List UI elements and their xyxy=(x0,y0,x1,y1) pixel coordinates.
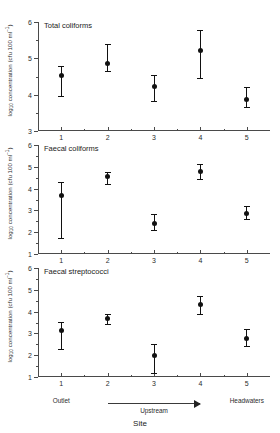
y-tick xyxy=(34,145,38,146)
y-tick-label: 6 xyxy=(28,142,32,149)
errorbar-cap-lower xyxy=(197,314,203,315)
errorbar-cap-upper xyxy=(197,30,203,31)
errorbar-cap-lower xyxy=(151,373,157,374)
y-axis-line xyxy=(38,22,39,131)
errorbar-cap-upper xyxy=(151,75,157,76)
errorbar-cap-lower xyxy=(244,219,250,220)
x-tick-label: 1 xyxy=(59,380,63,387)
errorbar-line xyxy=(200,30,201,78)
data-marker xyxy=(59,193,64,198)
y-tick xyxy=(34,131,38,132)
y-axis-title: log10 concentration (cfu 100 ml−1) xyxy=(6,16,14,125)
data-marker xyxy=(105,174,110,179)
y-tick xyxy=(34,355,38,356)
errorbar-cap-lower xyxy=(244,346,250,347)
y-tick-minor xyxy=(36,221,38,222)
y-tick-minor xyxy=(36,323,38,324)
errorbar-cap-lower xyxy=(58,96,64,97)
data-marker xyxy=(105,316,110,321)
y-tick-label: 1 xyxy=(28,251,32,258)
errorbar-cap-upper xyxy=(58,322,64,323)
x-axis-annotations: Outlet Headwaters Upstream Site xyxy=(0,389,280,433)
plot-area: 12345612345 xyxy=(38,145,270,254)
errorbar-cap-lower xyxy=(197,179,203,180)
x-tick-label: 2 xyxy=(106,380,110,387)
x-tick-minor xyxy=(177,375,178,377)
x-tick-minor xyxy=(131,252,132,254)
x-tick-minor xyxy=(224,252,225,254)
panel-faecal-streptococci: log10 concentration (cfu 100 ml−1) Faeca… xyxy=(0,262,280,389)
y-axis-title: log10 concentration (cfu 100 ml−1) xyxy=(6,262,14,371)
x-tick xyxy=(108,127,109,131)
data-marker xyxy=(105,61,110,66)
x-tick xyxy=(61,127,62,131)
errorbar-cap-upper xyxy=(105,314,111,315)
errorbar-cap-upper xyxy=(58,182,64,183)
y-tick xyxy=(34,95,38,96)
x-tick-label: 5 xyxy=(245,380,249,387)
x-tick xyxy=(108,250,109,254)
errorbar-cap-upper xyxy=(244,329,250,330)
data-marker xyxy=(152,84,157,89)
y-tick xyxy=(34,232,38,233)
errorbar-cap-lower xyxy=(105,184,111,185)
x-tick xyxy=(154,250,155,254)
x-tick-minor xyxy=(224,375,225,377)
data-marker xyxy=(59,328,64,333)
annotation-headwaters: Headwaters xyxy=(230,397,264,404)
errorbar-cap-upper xyxy=(105,44,111,45)
x-tick-minor xyxy=(131,129,132,131)
panel-faecal-coliforms: log10 concentration (cfu 100 ml−1) Faeca… xyxy=(0,139,280,266)
data-marker xyxy=(198,302,203,307)
x-tick xyxy=(200,373,201,377)
data-marker xyxy=(244,211,249,216)
y-axis-title: log10 concentration (cfu 100 ml−1) xyxy=(6,139,14,248)
y-tick xyxy=(34,254,38,255)
y-tick-label: 6 xyxy=(28,19,32,26)
errorbar-cap-lower xyxy=(105,71,111,72)
y-axis-line xyxy=(38,145,39,254)
y-tick-label: 4 xyxy=(28,308,32,315)
errorbar-cap-lower xyxy=(58,238,64,239)
y-tick-label: 2 xyxy=(28,352,32,359)
y-tick xyxy=(34,210,38,211)
y-tick-label: 1 xyxy=(28,374,32,381)
y-tick-label: 3 xyxy=(28,330,32,337)
y-tick-minor xyxy=(36,279,38,280)
y-tick-label: 6 xyxy=(28,265,32,272)
x-tick xyxy=(247,373,248,377)
y-tick xyxy=(34,58,38,59)
x-tick-minor xyxy=(131,375,132,377)
x-tick xyxy=(61,250,62,254)
x-tick xyxy=(108,373,109,377)
errorbar-cap-lower xyxy=(151,230,157,231)
x-tick-minor xyxy=(84,252,85,254)
y-tick-label: 4 xyxy=(28,185,32,192)
y-tick-minor xyxy=(36,366,38,367)
errorbar-line xyxy=(61,182,62,238)
data-marker xyxy=(59,73,64,78)
panel-total-coliforms: log10 concentration (cfu 100 ml−1) Total… xyxy=(0,16,280,143)
y-tick-minor xyxy=(36,77,38,78)
y-tick xyxy=(34,268,38,269)
plot-area: 345612345 xyxy=(38,22,270,131)
data-marker xyxy=(198,48,203,53)
x-tick xyxy=(247,127,248,131)
y-tick-label: 4 xyxy=(28,91,32,98)
errorbar-cap-upper xyxy=(197,164,203,165)
x-tick xyxy=(200,127,201,131)
x-tick xyxy=(61,373,62,377)
errorbar-cap-upper xyxy=(151,214,157,215)
y-tick xyxy=(34,377,38,378)
data-marker xyxy=(198,169,203,174)
data-marker xyxy=(152,221,157,226)
x-tick-minor xyxy=(177,252,178,254)
y-tick-minor xyxy=(36,40,38,41)
errorbar-cap-upper xyxy=(244,87,250,88)
y-tick-minor xyxy=(36,243,38,244)
y-tick-label: 2 xyxy=(28,229,32,236)
errorbar-cap-upper xyxy=(58,66,64,67)
x-tick xyxy=(154,127,155,131)
x-tick-minor xyxy=(84,129,85,131)
errorbar-cap-lower xyxy=(197,78,203,79)
